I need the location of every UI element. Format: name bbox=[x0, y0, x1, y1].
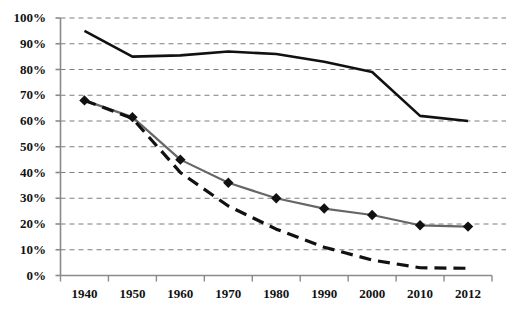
x-axis-label: 1970 bbox=[215, 287, 241, 300]
x-axis-label: 2012 bbox=[455, 287, 481, 300]
x-axis-label: 1940 bbox=[71, 287, 97, 300]
chart-container: 0%10%20%30%40%50%60%70%80%90%100% 194019… bbox=[0, 0, 514, 314]
x-axis-label: 2000 bbox=[359, 287, 385, 300]
x-axis-label: 1950 bbox=[119, 287, 145, 300]
x-axis-label: 1960 bbox=[167, 287, 193, 300]
x-axis-label: 1980 bbox=[263, 287, 289, 300]
x-axis-label: 2010 bbox=[407, 287, 433, 300]
x-axis-label: 1990 bbox=[311, 287, 337, 300]
x-axis-tick-labels: 194019501960197019801990200020102012 bbox=[0, 0, 514, 314]
